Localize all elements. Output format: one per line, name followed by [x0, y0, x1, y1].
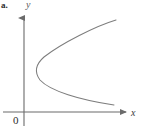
figure-container: a. y x 0	[0, 0, 143, 137]
origin-label: 0	[13, 115, 19, 126]
sideways-parabola-curve	[37, 20, 116, 105]
x-axis-label: x	[131, 108, 135, 118]
graph-canvas	[0, 0, 143, 137]
part-label: a.	[1, 1, 8, 10]
y-axis-label: y	[26, 0, 30, 10]
